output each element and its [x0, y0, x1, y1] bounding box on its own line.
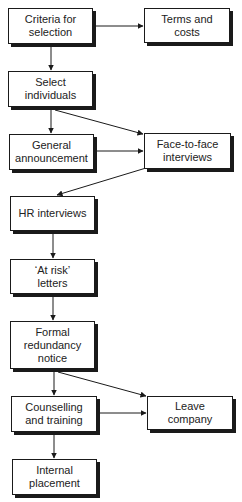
node-label: Formal redundancy notice — [24, 326, 82, 365]
node-internal-placement: Internal placement — [12, 459, 97, 495]
node-label: Leave company — [168, 400, 213, 426]
node-select-individuals: Select individuals — [8, 71, 93, 107]
node-label: Select individuals — [25, 76, 76, 102]
node-leave-company: Leave company — [147, 396, 233, 430]
arrow-formal-to-leave — [58, 372, 146, 396]
node-hr-interviews: HR interviews — [10, 196, 95, 231]
node-label: Internal placement — [29, 464, 80, 490]
node-general-announcement: General announcement — [9, 134, 94, 170]
node-label: Face-to-face interviews — [157, 138, 219, 164]
node-face-to-face-interviews: Face-to-face interviews — [144, 133, 231, 169]
arrow-select-to-facetoface — [55, 110, 143, 134]
node-label: Terms and costs — [161, 13, 212, 39]
node-terms-and-costs: Terms and costs — [144, 8, 230, 43]
flowchart-canvas: Criteria for selection Terms and costs S… — [0, 0, 242, 502]
arrow-facetoface-to-hr — [57, 168, 146, 195]
node-at-risk-letters: ‘At risk’ letters — [10, 259, 95, 294]
node-label: HR interviews — [19, 207, 87, 220]
node-label: Criteria for selection — [25, 13, 76, 39]
node-criteria-for-selection: Criteria for selection — [8, 8, 93, 44]
node-label: Counselling and training — [25, 401, 83, 427]
node-formal-redundancy-notice: Formal redundancy notice — [10, 321, 95, 369]
node-label: ‘At risk’ letters — [35, 264, 70, 290]
node-label: General announcement — [15, 139, 88, 165]
node-counselling-and-training: Counselling and training — [11, 396, 97, 432]
